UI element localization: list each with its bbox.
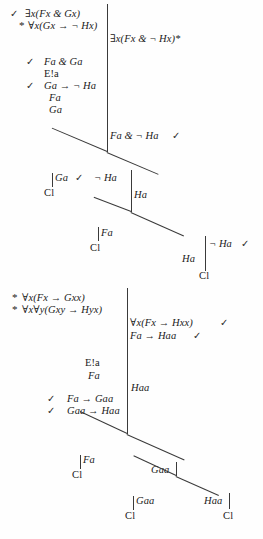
premise-line: ∀x(Gx → ¬ Hx) [28, 20, 97, 31]
node-bar [80, 455, 81, 469]
closed-branch-marker: Cl [223, 510, 233, 521]
derivation-line: Ga → ¬ Ha [44, 80, 96, 91]
node-bar [133, 496, 134, 510]
conclusion-formula: ∃x(Fx & ¬ Hx)* [110, 33, 180, 44]
node-bar [205, 236, 206, 256]
check-mark-icon: ✓ [26, 81, 34, 91]
derivation-line: Fa → Gaa [67, 393, 113, 404]
tree-node: Fa & ¬ Ha [110, 130, 159, 141]
closed-branch-marker: Cl [125, 510, 135, 521]
check-mark-icon: ✓ [172, 131, 180, 141]
node-bar [98, 227, 99, 241]
check-mark-icon: ✓ [47, 394, 55, 404]
check-mark-icon: ✓ [26, 57, 34, 67]
branch-left-arm [52, 128, 108, 152]
derivation-line: E!a [44, 68, 59, 79]
trunk-line [107, 4, 108, 141]
tree-node: ¬ Ha [94, 172, 117, 183]
tree-node: ¬ Ha [209, 238, 232, 249]
branch-right-arm [176, 476, 219, 496]
closed-branch-marker: Cl [72, 469, 82, 480]
derivation-line: Gaa → Haa [67, 405, 120, 416]
premise-line: ∃x(Fx & Gx) [25, 8, 80, 19]
closed-branch-marker: Cl [90, 242, 100, 253]
check-mark-icon: ✓ [193, 331, 201, 341]
check-mark-icon: ✓ [10, 9, 18, 19]
tree-node: Ha [182, 253, 195, 264]
derivation-line: Fa & Ga [44, 56, 83, 67]
closed-branch-marker: Cl [199, 270, 209, 281]
tree-node: Ga [55, 172, 68, 183]
tree-node: Haa [204, 495, 222, 506]
tree-node: Fa [83, 454, 95, 465]
premise-line: ∀x∀y(Gxy → Hyx) [22, 304, 102, 315]
premise-line: ∀x(Fx → Gxx) [22, 292, 85, 303]
branch-stem [131, 190, 132, 212]
derivation-line: E!a [85, 357, 100, 368]
check-mark-icon: ✓ [75, 173, 83, 183]
node-bar [52, 173, 53, 187]
check-mark-icon: ✓ [220, 318, 228, 328]
star-mark-icon: * [19, 20, 25, 31]
branch-right-arm [131, 212, 184, 237]
branch-left-arm [94, 197, 132, 212]
closed-branch-marker: Cl [44, 187, 54, 198]
tree-node: Fa [101, 227, 113, 238]
truth-tree-proof-page: ✓ ∃x(Fx & Gx) * ∀x(Gx → ¬ Hx) ∃x(Fx & ¬ … [0, 0, 263, 539]
node-bar [229, 493, 230, 509]
node-bar [176, 462, 177, 476]
derivation-line: Fa [49, 92, 61, 103]
tree-node: Gaa [136, 495, 154, 506]
derivation-line: Fa [88, 370, 100, 381]
star-mark-icon: * [12, 292, 18, 303]
check-mark-icon: ✓ [47, 406, 55, 416]
trunk-line [127, 288, 128, 434]
check-mark-icon: ✓ [241, 239, 249, 249]
derivation-line: Ga [49, 104, 62, 115]
tree-node: Ha [134, 189, 147, 200]
conclusion-formula: ∀x(Fx → Hxx) [130, 317, 193, 328]
tree-node: Haa [131, 382, 149, 393]
star-mark-icon: * [12, 304, 18, 315]
conclusion-formula: Fa → Haa [130, 330, 176, 341]
node-bar [205, 255, 206, 271]
node-bar [131, 170, 132, 190]
